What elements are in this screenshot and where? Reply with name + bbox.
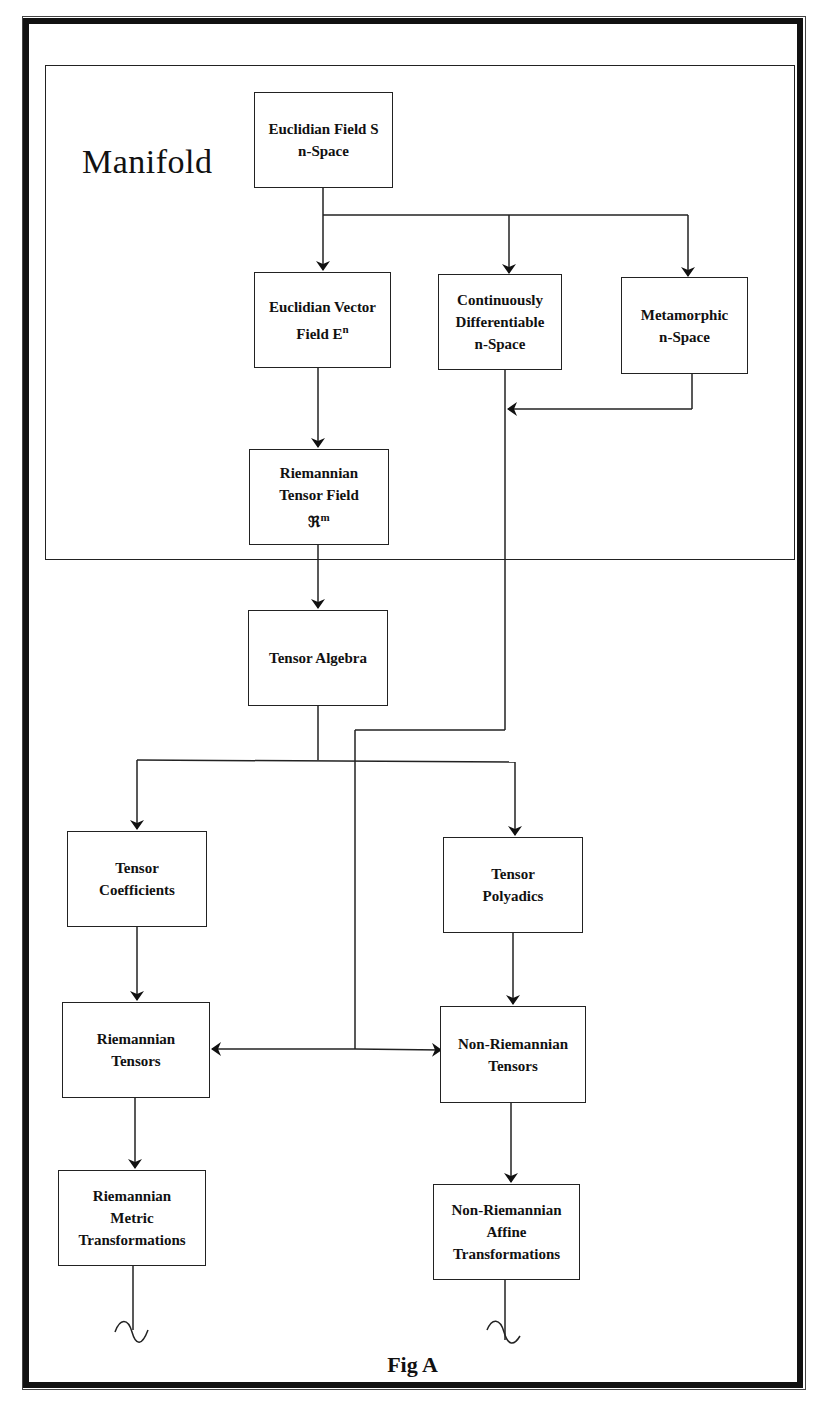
node-label: Field E [296, 326, 342, 342]
node-riemannian-tensors: RiemannianTensors [62, 1002, 210, 1098]
node-tensor-coefficients: TensorCoefficients [67, 831, 207, 927]
node-label: Transformations [78, 1232, 185, 1248]
figure-caption: Fig A [0, 1352, 825, 1378]
node-label: Riemannian [93, 1188, 171, 1204]
node-label: Affine [487, 1224, 527, 1240]
node-riemannian-tensor-field: RiemannianTensor Fieldℜm [249, 449, 389, 545]
node-label: Euclidian Vector [269, 299, 376, 315]
node-euclidian-field-s-n-space: Euclidian Field Sn-Space [254, 92, 393, 188]
superscript: n [343, 323, 349, 335]
node-label: Non-Riemannian [451, 1202, 561, 1218]
superscript: m [320, 511, 329, 523]
node-label: n-Space [298, 143, 349, 159]
node-riemannian-metric-transformations: RiemannianMetricTransformations [58, 1170, 206, 1266]
node-label: Transformations [453, 1246, 560, 1262]
node-label: n-Space [475, 336, 526, 352]
node-label: Tensor Algebra [269, 650, 367, 666]
node-label: n-Space [659, 329, 710, 345]
node-label: Continuously [457, 292, 543, 308]
node-label: Euclidian Field S [268, 121, 378, 137]
node-label: Metric [110, 1210, 153, 1226]
node-metamorphic-n-space: Metamorphicn-Space [621, 277, 748, 374]
node-non-riemannian-tensors: Non-RiemannianTensors [440, 1006, 586, 1103]
node-label: Metamorphic [641, 307, 728, 323]
node-label: Tensor [491, 866, 535, 882]
node-label: Differentiable [456, 314, 545, 330]
node-label: ℜ [308, 514, 320, 530]
node-non-riemannian-affine-transformations: Non-RiemannianAffineTransformations [433, 1184, 580, 1280]
node-label: Coefficients [99, 882, 175, 898]
node-label: Riemannian [97, 1031, 175, 1047]
node-label: Polyadics [483, 888, 544, 904]
node-label: Tensor Field [279, 487, 359, 503]
node-euclidian-vector-field: Euclidian VectorField En [254, 272, 391, 368]
node-label: Non-Riemannian [458, 1036, 568, 1052]
node-label: Riemannian [280, 465, 358, 481]
node-label: Tensor [115, 860, 159, 876]
node-label: Tensors [488, 1058, 537, 1074]
node-label: Tensors [111, 1053, 160, 1069]
node-tensor-polyadics: TensorPolyadics [443, 837, 583, 933]
node-tensor-algebra: Tensor Algebra [248, 610, 388, 706]
node-continuously-differentiable: ContinuouslyDifferentiablen-Space [438, 274, 562, 370]
